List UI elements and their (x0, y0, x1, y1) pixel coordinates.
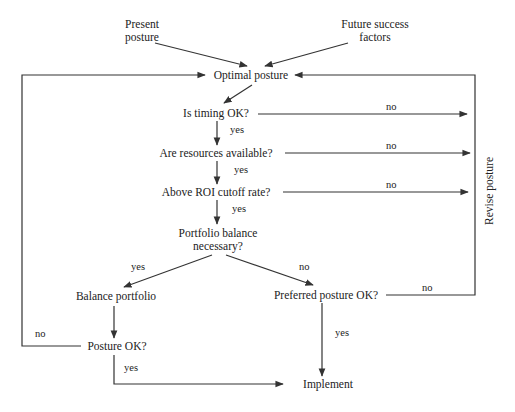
node-preferred-posture: Preferred posture OK? (274, 289, 378, 302)
revise-posture-loop (295, 75, 475, 295)
future-success-line1: Future success (341, 18, 408, 31)
arrow-optimal-to-timing (224, 85, 252, 103)
node-resources: Are resources available? (159, 147, 272, 160)
future-success-label: Future success factors (341, 18, 408, 44)
arrow-posture-to-implement (114, 355, 283, 384)
present-posture-line1: Present (125, 18, 159, 31)
node-roi: Above ROI cutoff rate? (162, 186, 271, 199)
arrow-future-to-optimal (265, 43, 348, 66)
flowchart-connectors (0, 0, 515, 412)
label-balance-yes: yes (131, 260, 145, 273)
label-roi-no: no (386, 178, 397, 191)
posture-no-loop (22, 75, 205, 346)
label-resources-no: no (386, 139, 397, 152)
label-preferred-no: no (422, 281, 433, 294)
balance-question-line2: necessary? (179, 240, 258, 253)
label-roi-yes: yes (232, 202, 246, 215)
node-balance-portfolio: Balance portfolio (76, 290, 156, 303)
node-timing: Is timing OK? (183, 107, 249, 120)
label-posture-yes: yes (124, 361, 138, 374)
node-revise-posture: Revise posture (483, 157, 496, 225)
label-timing-yes: yes (230, 123, 244, 136)
present-posture-line2: posture (125, 31, 159, 44)
label-balance-no: no (299, 260, 310, 273)
label-resources-yes: yes (234, 163, 248, 176)
present-posture-label: Present posture (125, 18, 159, 44)
node-implement: Implement (303, 378, 353, 391)
arrow-present-to-optimal (155, 43, 247, 66)
balance-question-line1: Portfolio balance (179, 227, 258, 240)
node-balance-question: Portfolio balance necessary? (179, 227, 258, 253)
node-posture-ok: Posture OK? (87, 340, 146, 353)
label-preferred-yes: yes (335, 326, 349, 339)
node-optimal-posture: Optimal posture (214, 69, 288, 82)
label-timing-no: no (386, 100, 397, 113)
future-success-line2: factors (341, 31, 408, 44)
label-posture-no: no (35, 327, 46, 340)
